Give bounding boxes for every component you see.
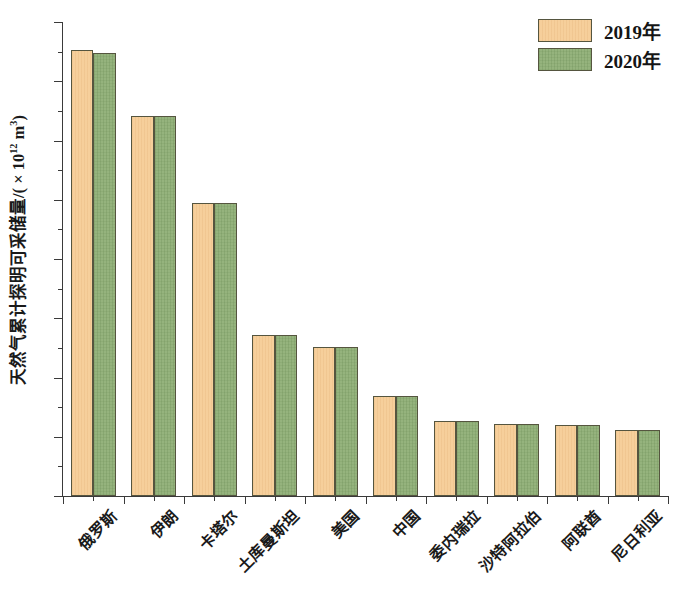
legend-label: 2019年 — [604, 17, 661, 44]
legend-swatch — [538, 48, 592, 71]
y-axis-title-base: 天然气累计探明可采储量/( × 10 — [9, 154, 28, 385]
x-axis-minor-tick — [214, 496, 215, 501]
x-axis-category-label: 尼日利亚 — [605, 504, 666, 565]
bar-2019 — [494, 424, 516, 496]
bar-2019 — [131, 116, 153, 496]
x-axis-category-label: 伊朗 — [144, 504, 182, 542]
y-axis-minor-tick — [58, 348, 63, 349]
x-axis-category-label: 俄罗斯 — [72, 504, 121, 553]
y-axis-title-unit: m — [9, 126, 28, 144]
x-axis-tick — [547, 496, 548, 504]
bar-2019 — [192, 203, 214, 496]
bar-2019 — [555, 425, 577, 496]
legend-swatch — [538, 19, 592, 42]
bar-chart-figure: 天然气累计探明可采储量/( × 1012 m3) 051015202530354… — [0, 0, 673, 594]
x-axis-tick — [184, 496, 185, 504]
x-axis-tick — [63, 496, 64, 504]
x-axis-minor-tick — [335, 496, 336, 501]
bar-2020 — [638, 430, 660, 496]
x-axis-tick — [608, 496, 609, 504]
plot-area: 0510152025303540 — [62, 22, 668, 497]
x-axis-tick — [366, 496, 367, 504]
y-axis-tick — [54, 378, 63, 379]
y-axis-minor-tick — [58, 229, 63, 230]
y-axis-minor-tick — [58, 52, 63, 53]
y-axis-tick — [54, 22, 63, 23]
bar-2019 — [373, 396, 395, 496]
y-axis-tick — [54, 437, 63, 438]
x-axis-tick — [426, 496, 427, 504]
y-axis-title-exponent: 12 — [9, 144, 20, 154]
x-axis-tick — [668, 496, 669, 504]
x-axis-category-label: 阿联酋 — [556, 504, 605, 553]
x-axis-tick — [124, 496, 125, 504]
y-axis-tick — [54, 200, 63, 201]
y-axis-minor-tick — [58, 466, 63, 467]
x-axis-minor-tick — [517, 496, 518, 501]
x-axis-tick — [487, 496, 488, 504]
y-axis-minor-tick — [58, 170, 63, 171]
x-axis-minor-tick — [577, 496, 578, 501]
x-axis-minor-tick — [93, 496, 94, 501]
legend-item: 2020年 — [538, 46, 666, 73]
y-axis-minor-tick — [58, 407, 63, 408]
y-axis-tick — [54, 81, 63, 82]
bar-2019 — [615, 430, 637, 496]
x-axis-minor-tick — [154, 496, 155, 501]
x-axis-minor-tick — [456, 496, 457, 501]
x-axis-category-label: 委内瑞拉 — [424, 504, 485, 565]
y-axis-tick — [54, 496, 63, 497]
x-axis-category-label: 沙特阿拉伯 — [473, 504, 545, 576]
bar-2019 — [313, 347, 335, 496]
y-axis-title: 天然气累计探明可采储量/( × 1012 m3) — [0, 0, 34, 500]
y-axis-tick — [54, 259, 63, 260]
x-axis-category-label: 土库曼斯坦 — [231, 504, 303, 576]
legend-item: 2019年 — [538, 17, 666, 44]
bar-2020 — [456, 421, 478, 496]
y-axis-minor-tick — [58, 111, 63, 112]
bar-2020 — [577, 425, 599, 496]
bar-2020 — [214, 203, 236, 496]
bar-2019 — [252, 335, 274, 496]
x-axis-category-label: 卡塔尔 — [193, 504, 242, 553]
y-axis-tick — [54, 318, 63, 319]
x-axis-tick — [245, 496, 246, 504]
x-axis-minor-tick — [396, 496, 397, 501]
y-axis-title-close-paren: ) — [9, 115, 28, 121]
bar-2020 — [335, 347, 357, 496]
y-axis-minor-tick — [58, 289, 63, 290]
x-axis-category-label: 中国 — [386, 504, 424, 542]
bar-2020 — [396, 396, 418, 496]
bar-2020 — [517, 424, 539, 496]
y-axis-title-unit-exponent: 3 — [9, 121, 20, 126]
bar-2020 — [93, 53, 115, 496]
x-axis-minor-tick — [638, 496, 639, 501]
bar-2020 — [275, 335, 297, 496]
y-axis-tick — [54, 141, 63, 142]
bar-2019 — [434, 421, 456, 496]
bar-2020 — [154, 116, 176, 496]
x-axis-category-label: 美国 — [326, 504, 364, 542]
legend: 2019年2020年 — [538, 17, 666, 75]
legend-label: 2020年 — [604, 46, 661, 73]
bar-2019 — [71, 50, 93, 496]
y-axis-title-text: 天然气累计探明可采储量/( × 1012 m3) — [5, 115, 29, 385]
x-axis-minor-tick — [275, 496, 276, 501]
x-axis-tick — [305, 496, 306, 504]
